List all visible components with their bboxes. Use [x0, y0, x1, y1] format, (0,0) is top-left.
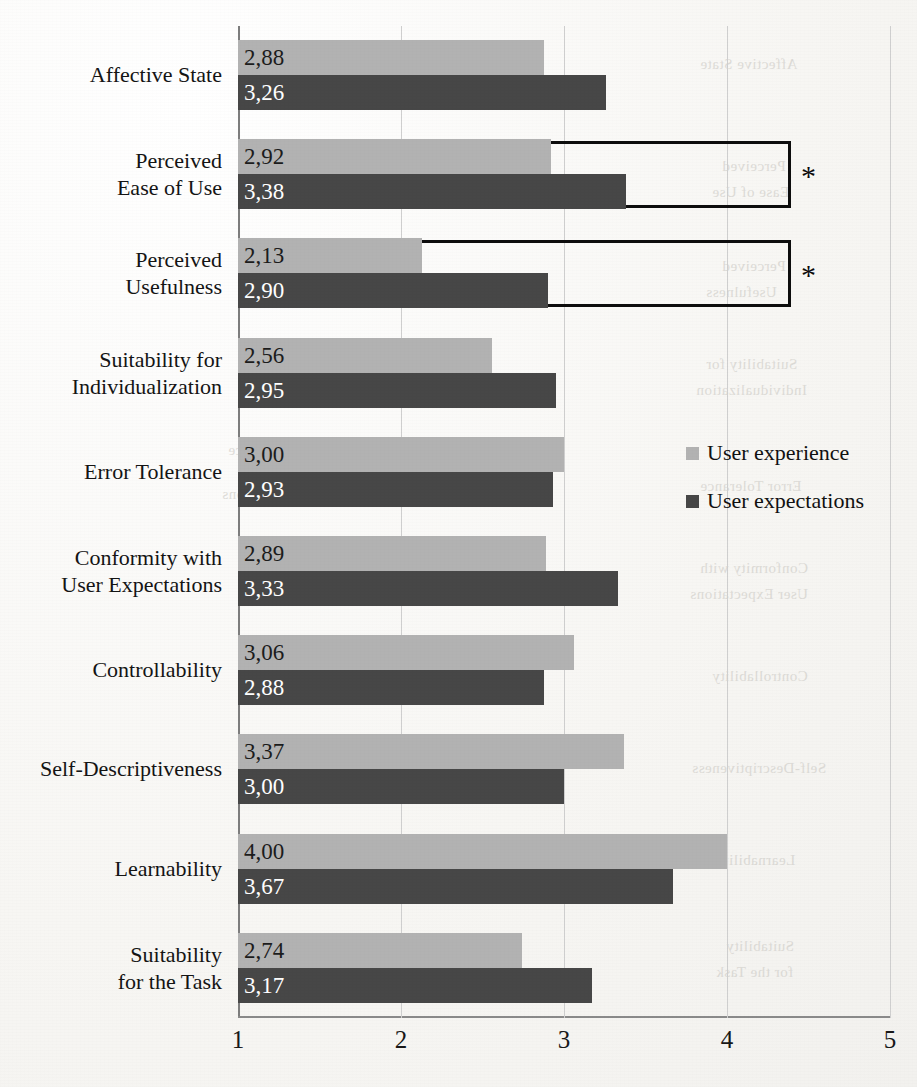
- category-label: Affective State: [7, 61, 222, 88]
- bar-user-expectations[interactable]: [238, 174, 626, 209]
- x-tick-label: 4: [721, 1026, 734, 1054]
- category-label: Suitability forIndividualization: [7, 346, 222, 400]
- legend-swatch-icon: [686, 447, 699, 460]
- legend-item-user-expectations: User expectations: [686, 488, 864, 514]
- category-label-line: Perceived: [7, 147, 222, 174]
- category-label-line: Conformity with: [7, 544, 222, 571]
- bar-user-experience[interactable]: [238, 139, 551, 174]
- category-axis-labels: Affective StatePerceivedEase of UsePerce…: [0, 26, 222, 1018]
- bar-value-label: 3,06: [244, 635, 284, 670]
- category-label-line: User Expectations: [7, 571, 222, 598]
- x-tick-label: 5: [884, 1026, 897, 1054]
- bar-user-expectations[interactable]: [238, 769, 564, 804]
- legend-item-user-experience: User experience: [686, 440, 864, 466]
- legend: User experience User expectations: [686, 440, 864, 536]
- category-label: PerceivedUsefulness: [7, 246, 222, 300]
- legend-label: User experience: [707, 440, 849, 466]
- x-tick-label: 3: [558, 1026, 571, 1054]
- category-label-line: Controllability: [7, 656, 222, 683]
- category-label: Controllability: [7, 656, 222, 683]
- bracket-top-line: [422, 240, 791, 243]
- bar-value-label: 3,38: [244, 174, 284, 209]
- category-label-line: Individualization: [7, 373, 222, 400]
- category-label: Error Tolerance: [7, 458, 222, 485]
- category-label: Self-Descriptiveness: [7, 755, 222, 782]
- bar-user-expectations[interactable]: [238, 373, 556, 408]
- significance-asterisk: *: [801, 161, 816, 191]
- significance-asterisk: *: [801, 260, 816, 290]
- bar-user-expectations[interactable]: [238, 273, 548, 308]
- bar-value-label: 3,67: [244, 869, 284, 904]
- category-label-line: Affective State: [7, 61, 222, 88]
- x-tick-label: 2: [395, 1026, 408, 1054]
- bar-value-label: 2,95: [244, 373, 284, 408]
- category-label-line: Learnability: [7, 855, 222, 882]
- x-tick-label: 1: [232, 1026, 245, 1054]
- bar-value-label: 3,33: [244, 571, 284, 606]
- bar-value-label: 2,74: [244, 933, 284, 968]
- category-label-line: Suitability: [7, 941, 222, 968]
- bar-value-label: 3,37: [244, 734, 284, 769]
- bar-value-label: 2,88: [244, 40, 284, 75]
- category-label: Conformity withUser Expectations: [7, 544, 222, 598]
- bar-user-expectations[interactable]: [238, 869, 673, 904]
- bracket-right-line: [788, 141, 791, 208]
- bar-value-label: 3,00: [244, 769, 284, 804]
- bracket-bottom-line: [548, 304, 791, 307]
- bar-value-label: 2,90: [244, 273, 284, 308]
- bracket-bottom-line: [626, 205, 791, 208]
- category-label-line: Self-Descriptiveness: [7, 755, 222, 782]
- bar-value-label: 2,88: [244, 670, 284, 705]
- bar-value-label: 3,17: [244, 968, 284, 1003]
- bar-value-label: 3,26: [244, 75, 284, 110]
- bar-chart: Affective State Perceived Ease of Use Pe…: [0, 0, 917, 1087]
- legend-swatch-icon: [686, 495, 699, 508]
- bracket-top-line: [551, 141, 791, 144]
- bar-user-expectations[interactable]: [238, 968, 592, 1003]
- bar-user-expectations[interactable]: [238, 472, 553, 507]
- category-label: Suitabilityfor the Task: [7, 941, 222, 995]
- category-label: Learnability: [7, 855, 222, 882]
- category-label-line: Usefulness: [7, 273, 222, 300]
- bar-value-label: 2,92: [244, 139, 284, 174]
- category-label-line: Error Tolerance: [7, 458, 222, 485]
- gridline: [890, 26, 891, 1018]
- bar-value-label: 2,89: [244, 536, 284, 571]
- bar-value-label: 3,00: [244, 437, 284, 472]
- category-label-line: Perceived: [7, 246, 222, 273]
- category-label-line: for the Task: [7, 968, 222, 995]
- bar-user-experience[interactable]: [238, 437, 564, 472]
- legend-label: User expectations: [707, 488, 864, 514]
- bar-value-label: 2,56: [244, 338, 284, 373]
- bar-value-label: 2,13: [244, 238, 284, 273]
- category-label-line: Suitability for: [7, 346, 222, 373]
- bar-value-label: 2,93: [244, 472, 284, 507]
- category-label-line: Ease of Use: [7, 174, 222, 201]
- bar-user-expectations[interactable]: [238, 75, 606, 110]
- bar-user-experience[interactable]: [238, 734, 624, 769]
- bar-user-experience[interactable]: [238, 834, 727, 869]
- bar-value-label: 4,00: [244, 834, 284, 869]
- category-label: PerceivedEase of Use: [7, 147, 222, 201]
- bar-user-experience[interactable]: [238, 635, 574, 670]
- bar-user-expectations[interactable]: [238, 571, 618, 606]
- bracket-right-line: [788, 240, 791, 307]
